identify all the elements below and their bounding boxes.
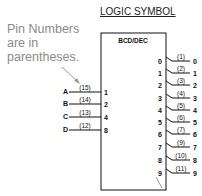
output-5: 5(6)5: [158, 114, 197, 126]
input-weight: 4: [104, 114, 108, 121]
output-index: 1: [158, 70, 162, 77]
output-2: 2(3)2: [158, 77, 197, 89]
logic-symbol: BCD/DEC A(15)1B(14)2C(13)4D(12)8 0(1)01(…: [0, 0, 202, 196]
output-pin: (3): [177, 77, 185, 85]
output-pin: (5): [177, 102, 185, 110]
block-label: BCD/DEC: [118, 37, 148, 44]
output-index: 9: [158, 170, 162, 177]
output-pin: (7): [177, 126, 185, 134]
output-4: 4(5)4: [158, 102, 197, 114]
input-name: A: [63, 88, 68, 95]
output-pin: (4): [177, 90, 185, 98]
output-pin: (9): [177, 139, 185, 147]
output-9: 9(11)9: [158, 165, 197, 177]
output-name: 3: [193, 95, 197, 102]
output-name: 8: [193, 157, 197, 164]
output-name: 7: [193, 144, 197, 151]
output-index: 3: [158, 95, 162, 102]
output-pin: (6): [177, 114, 185, 122]
output-8: 8(10)8: [158, 152, 197, 164]
output-6: 6(7)6: [158, 126, 197, 138]
bottom-arrow: [156, 177, 162, 188]
input-weight: 2: [104, 101, 108, 108]
input-pin: (14): [79, 96, 91, 104]
input-name: D: [63, 126, 68, 133]
output-pin: (1): [177, 53, 185, 61]
output-7: 7(9)7: [158, 139, 197, 151]
output-pin: (2): [177, 65, 185, 73]
output-3: 3(4)3: [158, 90, 197, 102]
output-index: 5: [158, 119, 162, 126]
output-pin: (10): [175, 152, 187, 160]
input-weight: 8: [104, 127, 108, 134]
input-weight: 1: [104, 89, 108, 96]
output-name: 1: [193, 70, 197, 77]
output-index: 8: [158, 157, 162, 164]
input-pin: (12): [79, 122, 91, 130]
input-pin: (15): [79, 84, 91, 92]
output-name: 4: [193, 107, 197, 114]
output-name: 5: [193, 119, 197, 126]
output-name: 2: [193, 82, 197, 89]
decoder-block: [101, 33, 166, 190]
output-name: 9: [193, 170, 197, 177]
output-pin: (11): [175, 165, 186, 173]
output-index: 0: [158, 58, 162, 65]
output-0: 0(1)0: [158, 53, 197, 65]
output-name: 6: [193, 131, 197, 138]
input-name: B: [63, 100, 68, 107]
output-index: 6: [158, 131, 162, 138]
input-name: C: [63, 113, 68, 120]
output-index: 2: [158, 82, 162, 89]
input-pin: (13): [79, 109, 91, 117]
output-1: 1(2)1: [158, 65, 197, 77]
output-index: 7: [158, 144, 162, 151]
output-name: 0: [193, 58, 197, 65]
output-index: 4: [158, 107, 162, 114]
